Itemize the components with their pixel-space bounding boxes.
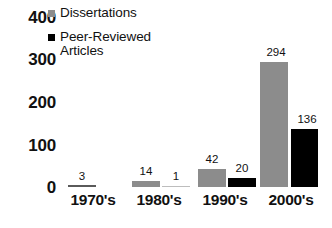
bar-group-2000s: 294 136 [262,10,324,187]
x-axis-tick-2000s: 2000's [256,192,326,208]
plot-area: 3 14 1 42 20 294 136 [60,10,322,187]
bar-peer-reviewed-1990s [228,178,256,187]
bar-value-label: 294 [260,47,292,59]
bar-value-label: 1 [162,171,190,183]
bar-dissertations-1980s [132,181,160,187]
bar-dissertations-1990s [198,169,226,187]
bar-group-1970s: 3 [64,10,126,187]
x-axis-tick-1990s: 1990's [190,192,260,208]
bar-value-label: 42 [198,154,226,166]
bar-group-1980s: 14 1 [130,10,192,187]
bar-value-label: 136 [291,114,323,126]
bar-peer-reviewed-2000s [291,129,318,187]
bar-chart: 400 300 200 100 0 Dissertations Peer-Rev… [0,0,332,228]
bar-dissertations-1970s [68,185,96,187]
bar-value-label: 14 [132,166,160,178]
y-axis-tick-100: 100 [10,137,56,154]
black-square-icon [48,34,55,41]
x-axis-tick-labels: 1970's 1980's 1990's 2000's [60,192,322,216]
bar-value-label: 3 [68,171,96,183]
y-axis-tick-200: 200 [10,94,56,111]
bar-group-1990s: 42 20 [196,10,258,187]
x-axis-tick-1970s: 1970's [58,192,128,208]
y-axis-tick-0: 0 [10,179,56,196]
bar-peer-reviewed-1980s [162,186,190,187]
bar-value-label: 20 [228,163,256,175]
bar-dissertations-2000s [260,62,288,187]
x-axis-tick-1980s: 1980's [124,192,194,208]
gray-square-icon [48,10,55,17]
